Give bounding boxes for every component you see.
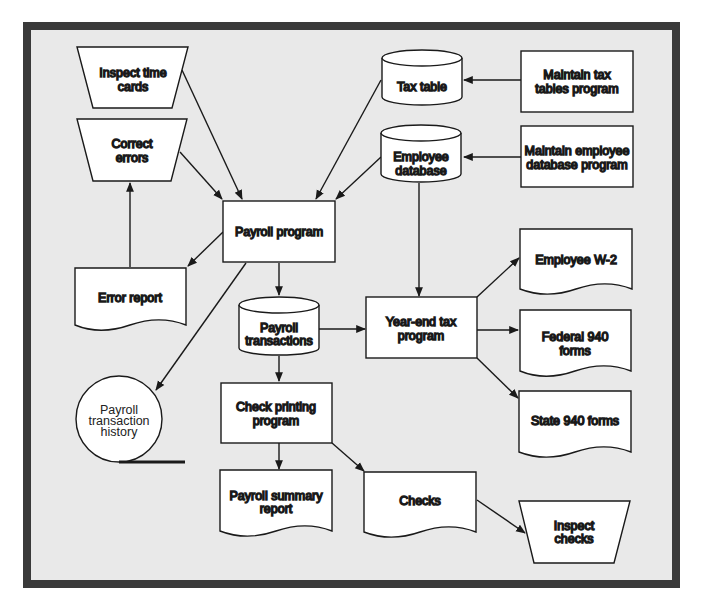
node-label: tables program (535, 82, 618, 96)
node-year-end-tax-program[interactable]: Year-end tax program (366, 297, 477, 358)
node-inspect-checks[interactable]: Inspect checks (519, 501, 630, 563)
node-check-printing-program[interactable]: Check printing program (221, 383, 332, 443)
node-label: program (398, 329, 445, 343)
node-label: Payroll summary (229, 489, 323, 503)
node-label: Employee W-2 (535, 253, 617, 267)
node-label: Federal 940 (542, 330, 609, 344)
node-federal-940-forms[interactable]: Federal 940 forms (520, 310, 631, 376)
node-label: State 940 forms (531, 414, 619, 428)
node-label: checks (555, 532, 594, 546)
node-label: database (395, 164, 446, 178)
node-checks[interactable]: Checks (364, 472, 476, 537)
node-error-report[interactable]: Error report (75, 268, 186, 330)
node-tax-table[interactable]: Tax table (382, 50, 462, 105)
node-label: Maintain employee (525, 144, 630, 158)
database-top (239, 297, 319, 313)
node-label: transactions (245, 334, 312, 348)
node-label: Checks (399, 494, 441, 508)
node-correct-errors[interactable]: Correct errors (77, 119, 187, 181)
database-top (381, 125, 461, 141)
node-label: Inspect time (99, 66, 166, 80)
node-maintain-tax-tables-program[interactable]: Maintain tax tables program (521, 51, 633, 112)
node-payroll-transactions[interactable]: Payroll transactions (239, 297, 319, 355)
node-label: errors (116, 151, 149, 165)
node-label: Payroll program (235, 225, 323, 239)
node-label: database program (526, 158, 627, 172)
node-label: forms (559, 344, 590, 358)
node-label: Error report (98, 291, 162, 305)
node-label: Tax table (397, 80, 447, 94)
node-label: Correct (112, 137, 154, 151)
database-top (382, 50, 462, 66)
node-label: Maintain tax (543, 68, 611, 82)
node-label: Inspect (554, 519, 595, 533)
node-label: Check printing (236, 400, 316, 414)
node-label: cards (118, 80, 149, 94)
node-payroll-program[interactable]: Payroll program (223, 201, 335, 262)
node-employee-w2[interactable]: Employee W-2 (520, 229, 632, 294)
payroll-flowchart: Inspect time cards Correct errors Tax ta… (0, 0, 702, 610)
node-label: program (253, 414, 300, 428)
node-label: Year-end tax (386, 315, 457, 329)
node-employee-database[interactable]: Employee database (381, 125, 461, 182)
node-label: report (260, 502, 293, 516)
node-maintain-employee-database-program[interactable]: Maintain employee database program (521, 126, 633, 187)
node-label: Payroll (260, 321, 298, 335)
node-label: history (101, 425, 139, 439)
node-payroll-summary-report[interactable]: Payroll summary report (220, 470, 332, 536)
node-label: Employee (393, 150, 449, 164)
node-inspect-time-cards[interactable]: Inspect time cards (77, 47, 188, 108)
node-state-940-forms[interactable]: State 940 forms (519, 391, 631, 457)
